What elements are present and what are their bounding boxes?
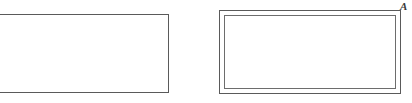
vertex-label-a: A: [400, 0, 407, 12]
right-rectangle-inner-outline: [224, 15, 396, 89]
figure-canvas: A: [0, 0, 412, 103]
right-rectangle-outer-outline: [219, 10, 401, 94]
left-rectangle: [0, 14, 169, 93]
right-rectangle-group: [219, 10, 401, 94]
